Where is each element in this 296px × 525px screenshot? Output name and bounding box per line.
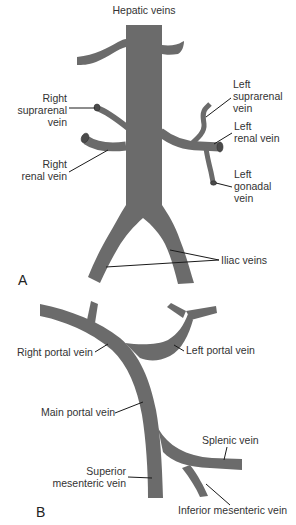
label-right-renal-vein: Right renal vein	[21, 158, 67, 182]
right-hepatic-vein	[77, 39, 126, 65]
label-right-suprarenal-vein: Right suprarenal vein	[17, 92, 67, 128]
leader-left-gonadal	[216, 183, 232, 187]
label-inferior-mesenteric-vein: Inferior mesenteric vein	[178, 504, 287, 516]
inferior-mesenteric-vein	[182, 465, 208, 497]
leader-right-renal	[69, 150, 108, 172]
svg-text:gonadal: gonadal	[234, 180, 271, 192]
svg-text:Left: Left	[234, 120, 252, 132]
label-right-portal-vein: Right portal vein	[17, 346, 93, 358]
svg-text:Left: Left	[233, 78, 251, 90]
leader-left-renal	[214, 133, 232, 144]
svg-text:Left: Left	[234, 168, 252, 180]
svg-text:vein: vein	[233, 102, 252, 114]
panel-a	[77, 25, 223, 284]
left-portal-vein	[125, 314, 193, 360]
label-main-portal-vein: Main portal vein	[41, 406, 115, 418]
label-iliac-veins: Iliac veins	[221, 254, 267, 266]
svg-text:suprarenal: suprarenal	[233, 90, 283, 102]
inferior-vena-cava	[88, 25, 194, 284]
right-suprarenal-vein	[97, 108, 128, 128]
panel-b	[40, 301, 242, 498]
label-left-renal-vein: Left renal vein	[234, 120, 280, 144]
left-gonadal-cap	[211, 181, 217, 185]
label-superior-mesenteric-vein: Superior mesenteric vein	[52, 465, 126, 489]
left-renal-cap	[217, 142, 223, 152]
left-portal-branch-left	[167, 303, 186, 318]
label-splenic-vein: Splenic vein	[202, 434, 259, 446]
svg-text:renal vein: renal vein	[21, 170, 67, 182]
label-left-suprarenal-vein: Left suprarenal vein	[233, 78, 283, 114]
venous-anatomy-diagram: Hepatic veins Right suprarenal vein Left…	[0, 0, 296, 525]
svg-text:vein: vein	[48, 116, 67, 128]
label-left-gonadal-vein: Left gonadal vein	[234, 168, 271, 204]
leader-inferior-mesenteric	[206, 484, 230, 505]
right-renal-vein	[86, 140, 126, 147]
svg-text:Right: Right	[42, 92, 67, 104]
svg-text:renal vein: renal vein	[234, 132, 280, 144]
svg-text:suprarenal: suprarenal	[17, 104, 67, 116]
leader-main-portal	[115, 402, 143, 413]
left-suprarenal-vein	[190, 104, 210, 145]
left-hepatic-vein	[162, 41, 184, 55]
label-left-portal-vein: Left portal vein	[186, 344, 255, 356]
label-hepatic-veins: Hepatic veins	[112, 4, 175, 16]
leader-right-portal	[95, 344, 108, 352]
svg-text:vein: vein	[234, 192, 253, 204]
panel-letter-a: A	[18, 272, 28, 288]
panel-letter-b: B	[36, 504, 45, 520]
leader-splenic	[224, 447, 227, 460]
svg-text:Superior: Superior	[86, 465, 126, 477]
svg-text:mesenteric vein: mesenteric vein	[52, 477, 126, 489]
left-gonadal-vein	[206, 148, 213, 182]
leader-iliac-left	[106, 260, 219, 267]
svg-text:Right: Right	[42, 158, 67, 170]
